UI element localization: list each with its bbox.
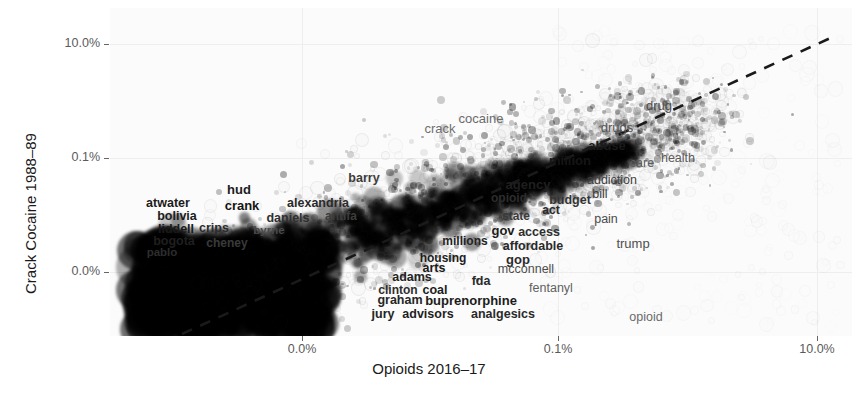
x-tick-mark <box>558 336 559 341</box>
data-point-label: bolivia <box>157 210 197 223</box>
x-axis-title: Opioids 2016–17 <box>0 360 858 377</box>
plot-panel: atwaterhudcrankalexandriaboliviadanielsa… <box>110 8 852 336</box>
data-point-label: barry <box>348 172 379 185</box>
word-label-layer: atwaterhudcrankalexandriaboliviadanielsa… <box>110 8 852 336</box>
y-tick-mark <box>104 158 109 159</box>
data-point-label: crank <box>225 199 260 212</box>
point-cloud-scatter <box>110 8 852 336</box>
data-point-label: fda <box>472 275 491 288</box>
data-point-label: access <box>518 226 560 239</box>
data-point-label: addiction <box>587 174 637 187</box>
data-point-label: jury <box>372 308 395 321</box>
data-point-label: opioid <box>491 192 527 204</box>
gridline-vertical <box>302 8 303 336</box>
data-point-label: abuse <box>588 139 626 152</box>
data-point-label: housing <box>420 252 467 264</box>
data-point-label: byrne <box>253 225 284 237</box>
gridline-horizontal <box>110 272 852 273</box>
data-point-label: state <box>502 210 530 222</box>
data-point-label: antifa <box>325 210 357 222</box>
x-tick-label: 10.0% <box>782 342 852 356</box>
y-tick-label: 0.0% <box>48 264 100 278</box>
data-point-label: hud <box>227 183 251 196</box>
x-tick-mark <box>817 336 818 341</box>
data-point-label: budget <box>549 194 591 207</box>
data-point-label: cheney <box>206 237 247 249</box>
data-point-label: pablo <box>147 247 178 259</box>
data-point-label: atwater <box>146 197 190 210</box>
point-cloud-dense <box>110 8 852 336</box>
y-tick-label: 10.0% <box>48 36 100 50</box>
y-tick-mark <box>104 272 109 273</box>
gridline-vertical <box>558 8 559 336</box>
data-point-label: million <box>549 154 591 167</box>
data-point-label: alexandria <box>287 197 349 210</box>
data-point-label: agency <box>506 178 551 191</box>
gridline-horizontal <box>110 158 852 159</box>
data-point-label: drugs <box>601 121 634 134</box>
data-point-label: analgesics <box>471 308 535 321</box>
data-point-label: millions <box>442 235 487 247</box>
chart-root: atwaterhudcrankalexandriaboliviadanielsa… <box>0 0 858 401</box>
trend-line <box>110 8 852 336</box>
data-point-label: pain <box>594 213 618 226</box>
gridline-horizontal <box>110 44 852 45</box>
data-point-label: gov <box>491 224 514 237</box>
data-point-label: trump <box>616 237 649 250</box>
data-point-label: daniels <box>266 212 309 225</box>
data-point-label: bill <box>592 188 607 201</box>
x-tick-label: 0.0% <box>267 342 337 356</box>
data-point-label: coal <box>422 284 447 297</box>
data-point-label: crack <box>424 122 455 135</box>
data-point-label: clinton <box>378 284 417 296</box>
data-point-label: mcconnell <box>498 263 554 276</box>
data-point-label: advisors <box>402 308 453 321</box>
data-point-label: buprenorphine <box>425 294 517 307</box>
x-tick-label: 0.1% <box>523 342 593 356</box>
data-point-label: drug <box>646 99 672 112</box>
data-point-label: liddell <box>158 223 194 236</box>
y-tick-label: 0.1% <box>48 150 100 164</box>
data-point-label: bogota <box>153 235 195 248</box>
data-point-label: gop <box>506 253 530 266</box>
y-tick-mark <box>104 44 109 45</box>
x-tick-mark <box>302 336 303 341</box>
data-point-label: cocaine <box>459 112 504 125</box>
data-point-label: crips <box>199 222 229 235</box>
data-point-label: fentanyl <box>529 282 573 295</box>
y-axis-title: Crack Cocaine 1988–89 <box>22 133 39 294</box>
data-point-label: opioid <box>629 311 662 324</box>
data-point-label: affordable <box>503 240 563 253</box>
gridline-vertical <box>817 8 818 336</box>
data-point-label: graham <box>377 294 422 307</box>
